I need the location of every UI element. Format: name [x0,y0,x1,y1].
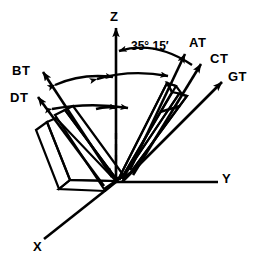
angle-label-35-15: 35° 15′ [131,40,169,52]
vector-label-dt: DT [10,91,28,104]
vector-label-bt: BT [12,64,30,77]
arc-bt [55,76,113,85]
vector-at [130,54,185,170]
crystal-axis-diagram: Z Y X BT DT AT CT GT 35° 15′ [0,0,260,265]
arc-dt-inner [96,107,117,109]
vector-ct [133,64,201,175]
prism-center [55,106,124,189]
axis-label-x: X [33,240,42,253]
vector-gt [122,82,222,182]
vector-dt [38,97,104,186]
prism-left [36,118,116,191]
diagram-canvas [0,0,260,265]
vector-label-gt: GT [228,70,247,83]
vector-label-at: AT [189,36,206,49]
axis-label-y: Y [222,172,231,185]
vector-bt [43,72,112,177]
vector-label-ct: CT [210,52,228,65]
axis-label-z: Z [110,10,118,23]
